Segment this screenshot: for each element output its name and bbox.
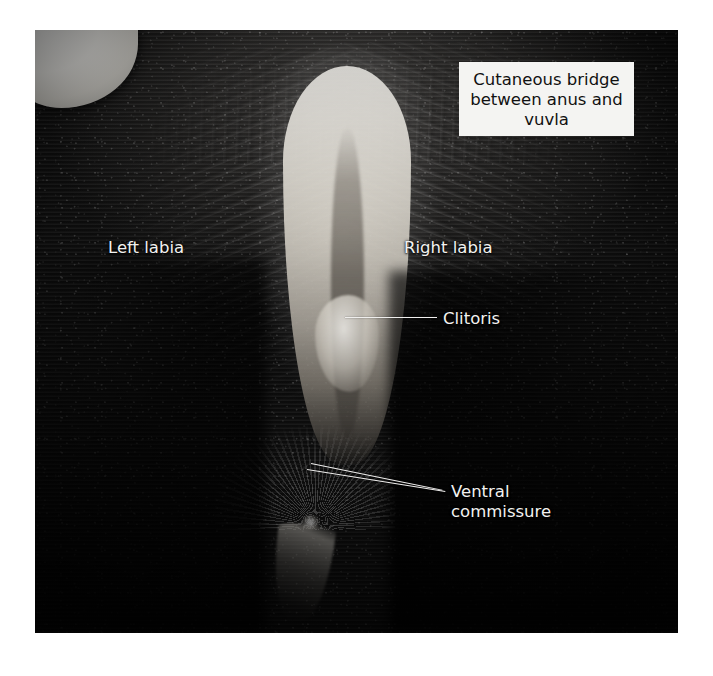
label-right-labia: Right labia (404, 238, 493, 258)
label-clitoris: Clitoris (443, 309, 500, 329)
label-left-labia: Left labia (108, 238, 184, 258)
callout-cutaneous-bridge: Cutaneous bridge between anus and vuvla (459, 62, 634, 136)
figure-container: Cutaneous bridge between anus and vuvla … (0, 0, 713, 676)
leader-line-clitoris (345, 317, 437, 318)
label-ventral-commissure: Ventral commissure (451, 482, 551, 522)
